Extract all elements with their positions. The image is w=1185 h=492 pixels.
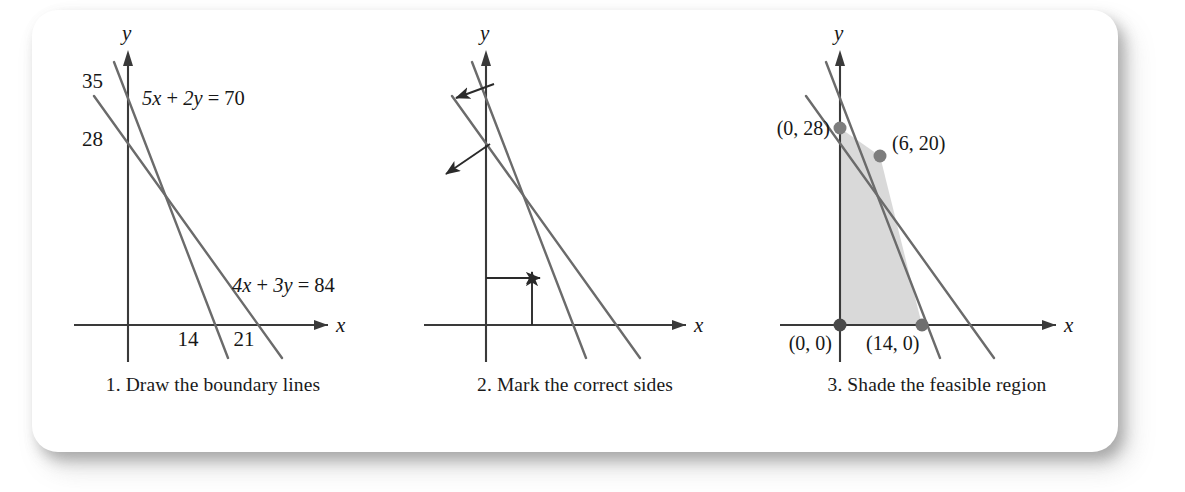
panel-3-svg: x y (0, 28) (6, 20) (0, 0) (14, 0)	[756, 10, 1118, 370]
y-axis-label: y	[120, 21, 132, 45]
x-axis-label: x	[1063, 313, 1074, 337]
y-axis-label: y	[478, 21, 490, 45]
vertex-label-6-20: (6, 20)	[892, 132, 945, 155]
vertex-point-6-20	[874, 150, 887, 163]
panel-2-svg: x y	[394, 10, 756, 370]
vertex-label-0-0: (0, 0)	[789, 332, 832, 355]
x-intercept-21-label: 21	[234, 327, 255, 351]
panel-row: x y 35 28 14 21 5x + 2y = 70 4x + 3y = 8…	[32, 10, 1118, 452]
panel-2-caption: 2. Mark the correct sides	[477, 374, 673, 396]
panel-1-svg: x y 35 28 14 21 5x + 2y = 70 4x + 3y = 8…	[32, 10, 394, 370]
panel-3-figure: x y (0, 28) (6, 20) (0, 0) (14, 0)	[756, 10, 1118, 370]
equation-label-1: 5x + 2y = 70	[142, 87, 245, 110]
side-arrow-line1	[456, 84, 494, 98]
x-axis	[424, 320, 686, 330]
y-intercept-35-label: 35	[82, 69, 103, 93]
panel-1-figure: x y 35 28 14 21 5x + 2y = 70 4x + 3y = 8…	[32, 10, 394, 370]
panel-mark-correct-sides: x y 2. Mark the correct sides	[394, 10, 756, 452]
side-arrow-line2	[446, 144, 490, 174]
equation-label-2: 4x + 3y = 84	[232, 274, 335, 297]
panel-2-figure: x y	[394, 10, 756, 370]
panel-1-caption: 1. Draw the boundary lines	[106, 374, 320, 396]
panel-3-caption: 3. Shade the feasible region	[828, 374, 1047, 396]
x-axis	[74, 320, 328, 330]
panel-shade-feasible-region: x y (0, 28) (6, 20) (0, 0) (14, 0) 3. Sh…	[756, 10, 1118, 452]
y-intercept-28-label: 28	[82, 127, 103, 151]
vertex-point-0-28	[834, 122, 847, 135]
vertex-point-14-0	[916, 319, 929, 332]
vertex-label-0-28: (0, 28)	[777, 117, 830, 140]
vertex-point-0-0	[834, 319, 847, 332]
figure-stage: x y 35 28 14 21 5x + 2y = 70 4x + 3y = 8…	[0, 0, 1185, 492]
x-intercept-14-label: 14	[178, 327, 200, 351]
x-axis-label: x	[693, 313, 704, 337]
x-axis-label: x	[335, 313, 346, 337]
boundary-line-5x2y70	[472, 62, 586, 358]
panel-draw-boundary-lines: x y 35 28 14 21 5x + 2y = 70 4x + 3y = 8…	[32, 10, 394, 452]
boundary-line-4x3y84	[452, 96, 640, 358]
boundary-line-4x3y84	[94, 96, 282, 358]
vertex-label-14-0: (14, 0)	[866, 332, 919, 355]
y-axis-label: y	[832, 21, 844, 45]
